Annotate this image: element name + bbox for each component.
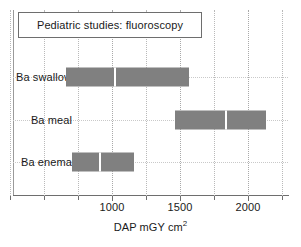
bar-ba-enema [72, 153, 135, 172]
bar-ba-swallow [66, 68, 188, 87]
x-tick-500 [44, 196, 45, 200]
x-tick-2250 [282, 196, 283, 200]
chart-title: Pediatric studies: fluoroscopy [37, 19, 183, 31]
category-label-ba-meal: Ba meal [31, 114, 72, 126]
x-tick-250 [10, 196, 11, 200]
x-tick-label-1500: 1500 [168, 201, 193, 213]
gridline-2250 [282, 10, 283, 196]
bar-divider-ba-swallow [114, 68, 116, 87]
gridline-2000 [248, 10, 249, 196]
x-axis-title-superscript: 2 [183, 219, 188, 228]
category-label-ba-swallow: Ba swallow [16, 71, 72, 83]
category-label-ba-enema: Ba enema [21, 156, 72, 168]
x-tick-750 [78, 196, 79, 200]
bar-divider-ba-enema [99, 153, 101, 172]
x-tick-1250 [146, 196, 147, 200]
bar-ba-meal [175, 111, 267, 130]
x-tick-label-1000: 1000 [100, 201, 125, 213]
x-axis-title-text: DAP mGY cm [114, 221, 183, 233]
x-tick-label-2000: 2000 [236, 201, 261, 213]
x-axis-title: DAP mGY cm2 [0, 219, 301, 233]
chart-container: 100015002000 Ba swallowBa mealBa enema P… [0, 0, 301, 247]
chart-title-box: Pediatric studies: fluoroscopy [18, 12, 202, 38]
bar-divider-ba-meal [225, 111, 227, 130]
gridline-250 [10, 10, 11, 196]
gridline-1750 [214, 10, 215, 196]
y-axis-line [13, 10, 14, 196]
x-tick-1750 [214, 196, 215, 200]
